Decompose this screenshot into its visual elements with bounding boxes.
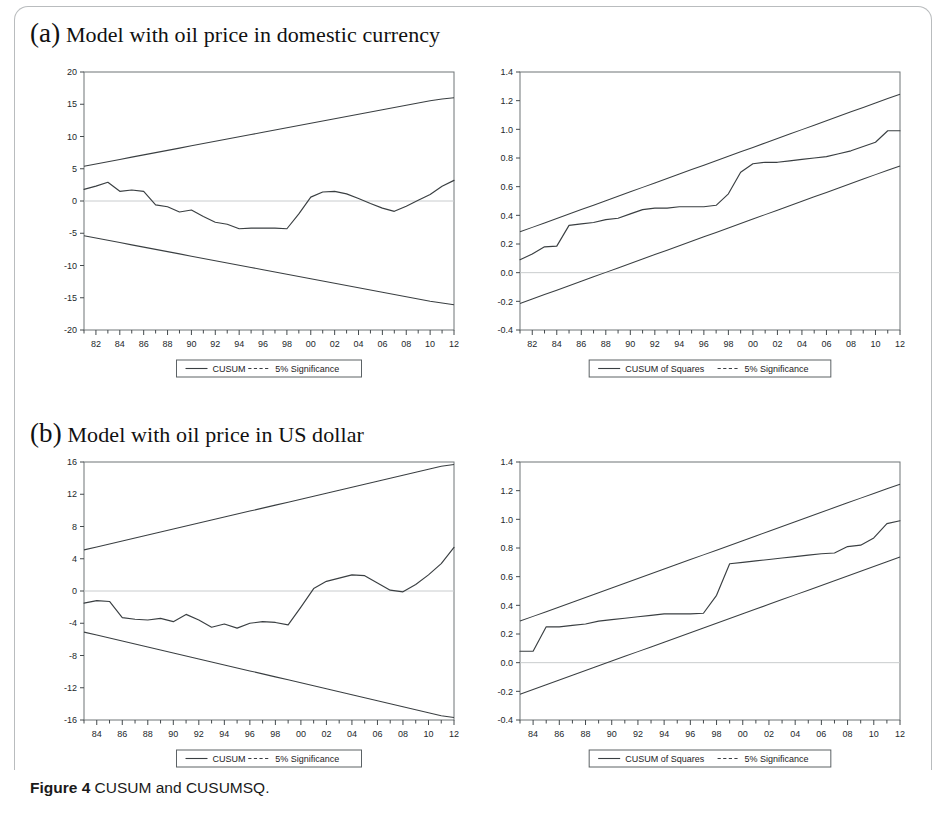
y-axis-tick-label: -4 xyxy=(69,618,77,628)
y-axis-tick-label: -0.2 xyxy=(497,297,513,307)
x-axis-tick-label: 04 xyxy=(354,339,364,349)
y-axis-tick-label: 0 xyxy=(72,196,77,206)
y-axis-tick-label: 1.0 xyxy=(500,515,513,525)
cusum-series-line xyxy=(84,547,454,628)
x-axis-tick-label: 96 xyxy=(699,339,709,349)
y-axis-tick-label: 1.2 xyxy=(500,96,513,106)
y-axis-tick-label: 10 xyxy=(67,132,77,142)
x-axis-tick-label: 92 xyxy=(633,729,643,739)
x-axis-tick-label: 12 xyxy=(895,729,905,739)
x-axis-tick-label: 06 xyxy=(816,729,826,739)
chart-svg: 1612840-4-8-12-1684868890929496980002040… xyxy=(44,452,464,782)
legend-label: CUSUM xyxy=(213,364,246,374)
cusum-series-line xyxy=(84,180,454,228)
x-axis-tick-label: 12 xyxy=(449,339,459,349)
chart-cusum-usdollar: 1612840-4-8-12-1684868890929496980002040… xyxy=(44,452,464,782)
y-axis-tick-label: -0.4 xyxy=(497,715,513,725)
y-axis-tick-label: 20 xyxy=(67,67,77,77)
x-axis-tick-label: 10 xyxy=(423,729,433,739)
significance-bound-line xyxy=(84,98,454,166)
cusum-series-line xyxy=(520,131,900,260)
x-axis-tick-label: 94 xyxy=(234,339,244,349)
y-axis-tick-label: -8 xyxy=(69,651,77,661)
x-axis-tick-label: 94 xyxy=(219,729,229,739)
x-axis-tick-label: 12 xyxy=(449,729,459,739)
cusum-series-line xyxy=(520,521,900,651)
x-axis-tick-label: 88 xyxy=(601,339,611,349)
x-axis-tick-label: 92 xyxy=(650,339,660,349)
chart-cusumsq-domestic: 1.41.21.00.80.60.40.20.0-0.2-0.482848688… xyxy=(480,62,910,392)
y-axis-tick-label: 0.2 xyxy=(500,239,513,249)
y-axis-tick-label: 0.6 xyxy=(500,182,513,192)
significance-bound-line xyxy=(520,484,900,621)
x-axis-tick-label: 88 xyxy=(581,729,591,739)
chart-svg: 1.41.21.00.80.60.40.20.0-0.2-0.484868890… xyxy=(480,452,910,782)
x-axis-tick-label: 06 xyxy=(821,339,831,349)
x-axis-tick-label: 86 xyxy=(554,729,564,739)
x-axis-tick-label: 82 xyxy=(527,339,537,349)
x-axis-tick-label: 10 xyxy=(870,339,880,349)
x-axis-tick-label: 12 xyxy=(895,339,905,349)
x-axis-tick-label: 96 xyxy=(258,339,268,349)
x-axis-tick-label: 86 xyxy=(139,339,149,349)
legend-label: CUSUM of Squares xyxy=(625,754,705,764)
panel-b-title: (b) Model with oil price in US dollar xyxy=(30,418,364,449)
x-axis-tick-label: 04 xyxy=(347,729,357,739)
significance-bound-line xyxy=(84,632,454,717)
y-axis-tick-label: 0.4 xyxy=(500,211,513,221)
y-axis-tick-label: -0.4 xyxy=(497,325,513,335)
chart-svg: 20151050-5-10-15-20828486889092949698000… xyxy=(44,62,464,392)
panel-b-marker: (b) xyxy=(30,418,62,448)
x-axis-tick-label: 84 xyxy=(528,729,538,739)
x-axis-tick-label: 04 xyxy=(790,729,800,739)
significance-bound-line xyxy=(520,557,900,694)
legend-label: 5% Significance xyxy=(745,754,809,764)
chart-svg: 1.41.21.00.80.60.40.20.0-0.2-0.482848688… xyxy=(480,62,910,392)
y-axis-tick-label: 15 xyxy=(67,99,77,109)
y-axis-tick-label: -10 xyxy=(64,261,77,271)
y-axis-tick-label: 5 xyxy=(72,164,77,174)
y-axis-tick-label: 12 xyxy=(67,489,77,499)
x-axis-tick-label: 98 xyxy=(712,729,722,739)
y-axis-tick-label: -5 xyxy=(69,228,77,238)
y-axis-tick-label: 0.0 xyxy=(500,268,513,278)
legend-label: 5% Significance xyxy=(275,754,339,764)
x-axis-tick-label: 00 xyxy=(306,339,316,349)
x-axis-tick-label: 02 xyxy=(764,729,774,739)
x-axis-tick-label: 00 xyxy=(738,729,748,739)
x-axis-tick-label: 98 xyxy=(723,339,733,349)
y-axis-tick-label: -12 xyxy=(64,683,77,693)
legend-label: CUSUM xyxy=(213,754,246,764)
legend-label: CUSUM of Squares xyxy=(625,364,705,374)
chart-cusumsq-usdollar: 1.41.21.00.80.60.40.20.0-0.2-0.484868890… xyxy=(480,452,910,782)
legend-label: 5% Significance xyxy=(745,364,809,374)
y-axis-tick-label: 0.6 xyxy=(500,572,513,582)
x-axis-tick-label: 98 xyxy=(270,729,280,739)
y-axis-tick-label: 0.4 xyxy=(500,601,513,611)
figure-caption-label: Figure 4 xyxy=(30,779,90,796)
y-axis-tick-label: 0.2 xyxy=(500,629,513,639)
y-axis-tick-label: -15 xyxy=(64,293,77,303)
x-axis-tick-label: 02 xyxy=(330,339,340,349)
figure-caption: Figure 4 CUSUM and CUSUMSQ. xyxy=(30,779,269,797)
panel-a-title: (a) Model with oil price in domestic cur… xyxy=(30,18,440,49)
y-axis-tick-label: 0.8 xyxy=(500,153,513,163)
y-axis-tick-label: -0.2 xyxy=(497,687,513,697)
y-axis-tick-label: -16 xyxy=(64,715,77,725)
y-axis-tick-label: 0.0 xyxy=(500,658,513,668)
x-axis-tick-label: 90 xyxy=(186,339,196,349)
x-axis-tick-label: 02 xyxy=(772,339,782,349)
x-axis-tick-label: 92 xyxy=(210,339,220,349)
x-axis-tick-label: 08 xyxy=(401,339,411,349)
y-axis-tick-label: 4 xyxy=(72,554,77,564)
x-axis-tick-label: 84 xyxy=(115,339,125,349)
figure-container: (a) Model with oil price in domestic cur… xyxy=(0,0,935,815)
y-axis-tick-label: 0 xyxy=(72,586,77,596)
legend-label: 5% Significance xyxy=(275,364,339,374)
significance-bound-line xyxy=(84,464,454,549)
significance-bound-line xyxy=(84,236,454,305)
x-axis-tick-label: 86 xyxy=(117,729,127,739)
y-axis-tick-label: 1.0 xyxy=(500,125,513,135)
x-axis-tick-label: 06 xyxy=(372,729,382,739)
significance-bound-line xyxy=(520,166,900,304)
